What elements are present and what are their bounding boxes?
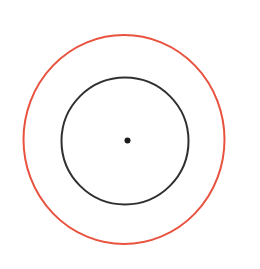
concentric-circles-figure <box>0 0 260 269</box>
figure-canvas <box>0 0 260 269</box>
center-point <box>125 138 131 144</box>
outer-circle <box>24 35 225 244</box>
